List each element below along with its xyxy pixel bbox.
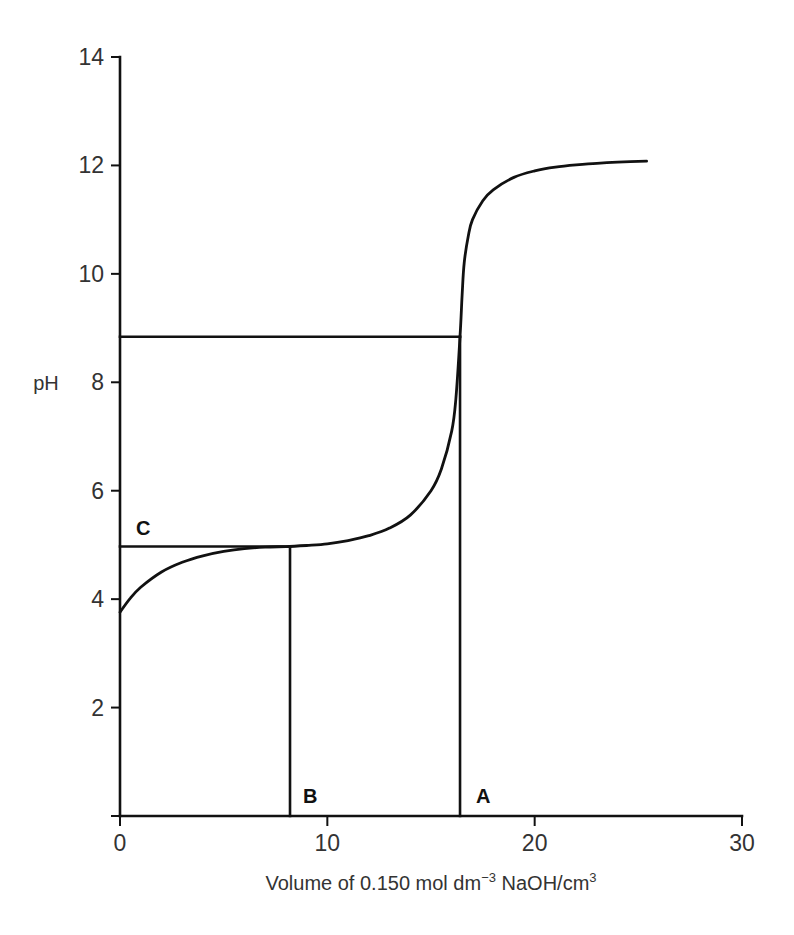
x-axis-title: Volume of 0.150 mol dm−3 NaOH/cm3 [265,870,596,894]
x-tick-label: 0 [114,830,127,856]
y-tick-label: 6 [91,478,104,504]
plot-area: 24681012140102030pHVolume of 0.150 mol d… [33,44,755,894]
y-tick-label: 14 [78,44,104,70]
titration-chart: 24681012140102030pHVolume of 0.150 mol d… [0,0,794,935]
y-axis-title: pH [33,372,59,394]
x-tick-label: 20 [522,830,548,856]
y-tick-label: 8 [91,369,104,395]
titration-curve [120,161,647,612]
y-tick-label: 4 [91,586,104,612]
x-tick-label: 30 [729,830,755,856]
y-tick-label: 12 [78,152,104,178]
y-tick-label: 10 [78,261,104,287]
marker-label-a: A [476,785,490,807]
x-tick-label: 10 [315,830,341,856]
marker-label-b: B [303,785,317,807]
y-tick-label: 2 [91,695,104,721]
marker-label-c: C [136,517,150,539]
